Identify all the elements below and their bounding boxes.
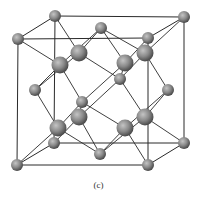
cube-edge: [55, 16, 184, 17]
cube-edge: [17, 143, 54, 165]
crystal-structure-diagram: [0, 0, 197, 204]
corner-atom: [142, 32, 154, 44]
cube-edge: [17, 39, 18, 165]
interior-atom: [50, 120, 67, 137]
cube-edge: [18, 38, 148, 39]
interior-atom: [117, 120, 134, 137]
corner-atom: [12, 33, 24, 45]
corner-atom: [178, 137, 190, 149]
corner-atom: [48, 137, 60, 149]
interior-atom: [71, 45, 88, 62]
interior-atom: [71, 109, 88, 126]
corner-atom: [11, 159, 23, 171]
face-atom: [95, 22, 107, 34]
face-atom: [162, 84, 174, 96]
face-atom: [29, 84, 41, 96]
cube-edge: [18, 16, 55, 39]
interior-atom: [117, 55, 134, 72]
corner-atom: [142, 159, 154, 171]
figure-caption: (c): [0, 180, 197, 190]
face-atom: [114, 73, 126, 85]
face-atom: [76, 96, 88, 108]
corner-atom: [49, 10, 61, 22]
cube-edge: [148, 143, 184, 165]
interior-atom: [137, 45, 154, 62]
atoms: [11, 10, 190, 171]
interior-atom: [52, 57, 69, 74]
interior-atom: [137, 109, 154, 126]
face-atom: [94, 148, 106, 160]
corner-atom: [178, 11, 190, 23]
cube-edge: [148, 17, 184, 38]
